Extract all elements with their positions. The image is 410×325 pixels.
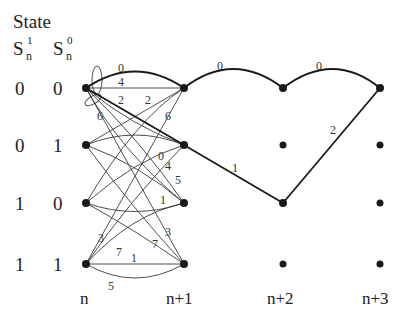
svg-text:1: 1: [131, 251, 137, 265]
state-10-bit0: 0: [53, 193, 63, 214]
svg-text:0: 0: [158, 149, 164, 163]
svg-text:0: 0: [217, 59, 223, 73]
state-labels: 0 0 0 1 1 0 1 1: [15, 78, 63, 275]
state-11-bit1: 1: [15, 254, 25, 275]
node-n3-s00: [376, 84, 384, 92]
node-n2-s11: [280, 261, 287, 268]
time-label-n: n: [80, 289, 89, 308]
node-n2-s01: [280, 142, 287, 149]
svg-text:5: 5: [175, 173, 181, 187]
node-n1-s00: [180, 84, 188, 92]
svg-text:7: 7: [152, 237, 158, 251]
svg-text:1: 1: [27, 34, 33, 46]
node-n2-s00: [279, 84, 287, 92]
state-01-bit1: 0: [15, 135, 25, 156]
svg-text:n: n: [26, 49, 32, 63]
node-n-s00: [82, 84, 90, 92]
node-n3-s10: [377, 200, 384, 207]
bit0-header: S 0 n: [53, 34, 73, 63]
node-n2-s10: [279, 199, 287, 207]
trellis-diagram: State S 1 n S 0 n 0 0 0 1 1 0 1 1: [0, 0, 410, 325]
node-n1-s11: [180, 260, 188, 268]
svg-text:2: 2: [118, 93, 124, 107]
svg-text:6: 6: [165, 109, 171, 123]
node-n3-s01: [377, 142, 384, 149]
svg-text:2: 2: [330, 123, 336, 137]
node-n-s01: [82, 141, 90, 149]
bit1-header: S 1 n: [13, 34, 33, 63]
svg-text:5: 5: [108, 279, 114, 293]
svg-text:1: 1: [232, 161, 238, 175]
svg-text:3: 3: [98, 231, 104, 245]
time-axis-labels: n n+1 n+2 n+3: [80, 289, 389, 308]
branch-labels: 0 4 2 2 6 6 0 4 5 1 3 7 1 3 7 5: [97, 61, 181, 293]
time-label-n1: n+1: [166, 289, 193, 308]
time-label-n3: n+3: [362, 289, 389, 308]
node-n-s10: [82, 199, 90, 207]
svg-text:3: 3: [165, 225, 171, 239]
state-00-bit1: 0: [15, 78, 25, 99]
state-11-bit0: 1: [53, 254, 63, 275]
svg-text:0: 0: [118, 61, 124, 75]
node-n1-s01: [180, 141, 188, 149]
state-00-bit0: 0: [53, 78, 63, 99]
node-n1-s10: [180, 199, 188, 207]
svg-text:6: 6: [97, 109, 103, 123]
time-label-n2: n+2: [267, 289, 294, 308]
state-header: State: [13, 11, 51, 32]
svg-text:S: S: [13, 38, 24, 59]
node-n3-s11: [377, 261, 384, 268]
svg-text:7: 7: [116, 245, 122, 259]
svg-text:0: 0: [316, 59, 322, 73]
node-n-s11: [82, 260, 90, 268]
state-01-bit0: 1: [53, 135, 63, 156]
svg-text:2: 2: [145, 93, 151, 107]
svg-text:S: S: [53, 38, 64, 59]
svg-text:1: 1: [160, 193, 166, 207]
svg-text:4: 4: [165, 159, 171, 173]
svg-text:0: 0: [67, 34, 73, 46]
state-10-bit1: 1: [15, 193, 25, 214]
svg-text:n: n: [66, 49, 72, 63]
survivor-labels: 0 0 1 2: [217, 59, 336, 175]
svg-text:4: 4: [118, 75, 124, 89]
